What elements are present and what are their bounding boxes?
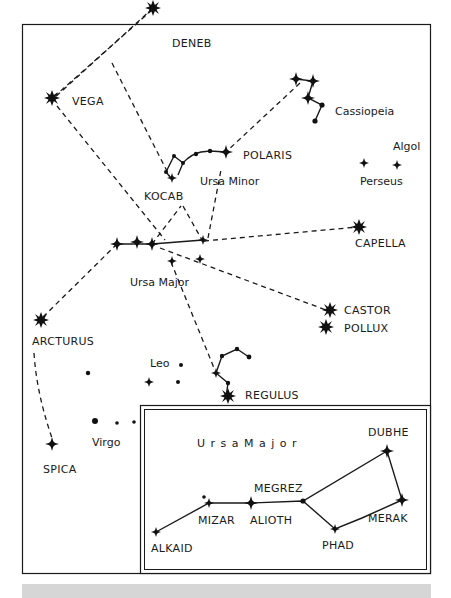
star-arcturus bbox=[33, 312, 49, 328]
star-regulus bbox=[220, 388, 236, 404]
label-castor: CASTOR bbox=[344, 304, 391, 317]
star-castor bbox=[322, 302, 338, 318]
star-pollux bbox=[318, 319, 334, 335]
label-alioth: ALIOTH bbox=[250, 514, 292, 527]
bottom-bar bbox=[22, 584, 431, 598]
ursa-major-inset: U r s a M a j o r DUBHE MERAK PHAD MEGRE… bbox=[141, 406, 431, 574]
label-algol: Algol bbox=[393, 140, 420, 153]
label-merak: MERAK bbox=[368, 512, 408, 525]
label-spica: SPICA bbox=[43, 463, 77, 476]
leo-figure bbox=[144, 347, 251, 397]
inset-title: U r s a M a j o r bbox=[197, 437, 298, 450]
star-vega bbox=[44, 90, 60, 106]
label-regulus: REGULUS bbox=[245, 389, 299, 402]
virgo-figure bbox=[86, 371, 136, 425]
cassiopeia-figure bbox=[289, 72, 325, 124]
star-spica bbox=[45, 437, 59, 451]
label-megrez: MEGREZ bbox=[254, 482, 303, 495]
label-perseus: Perseus bbox=[360, 175, 403, 188]
label-mizar: MIZAR bbox=[198, 514, 235, 527]
label-pollux: POLLUX bbox=[344, 322, 389, 335]
pointer-lines bbox=[34, 8, 358, 438]
label-deneb: DENEB bbox=[172, 37, 212, 50]
label-phad: PHAD bbox=[322, 539, 354, 552]
label-cassiopeia: Cassiopeia bbox=[335, 105, 394, 118]
star-capella bbox=[351, 219, 367, 235]
label-alkaid: ALKAID bbox=[151, 542, 193, 555]
label-virgo: Virgo bbox=[92, 436, 121, 449]
label-vega: VEGA bbox=[72, 95, 104, 108]
label-leo: Leo bbox=[150, 357, 170, 370]
label-dubhe: DUBHE bbox=[368, 426, 409, 439]
perseus-figure bbox=[359, 158, 402, 170]
label-kocab: KOCAB bbox=[144, 190, 184, 203]
star-chart: DENEB VEGA POLARIS KOCAB CAPELLA CASTOR … bbox=[0, 0, 451, 598]
label-arcturus: ARCTURUS bbox=[32, 335, 94, 348]
star-deneb bbox=[145, 0, 161, 16]
label-polaris: POLARIS bbox=[243, 149, 292, 162]
label-ursa-minor: Ursa Minor bbox=[200, 175, 260, 188]
ursa-major-figure bbox=[110, 235, 208, 266]
label-capella: CAPELLA bbox=[355, 237, 406, 250]
label-ursa-major: Ursa Major bbox=[130, 276, 190, 289]
